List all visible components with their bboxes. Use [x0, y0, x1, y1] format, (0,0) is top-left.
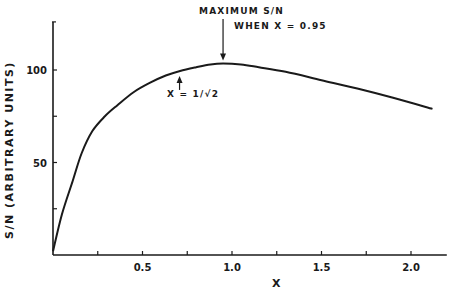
x-tick-label: 1.0: [223, 262, 241, 273]
x-tick-label: 2.0: [402, 262, 420, 273]
x-tick-label: 0.5: [134, 262, 152, 273]
arrow-up-icon: [177, 76, 183, 83]
y-tick-label: 100: [26, 65, 47, 76]
annotation-maximum: MAXIMUM S/N WHEN X = 0.95: [199, 6, 327, 61]
annotation-maximum-line1: MAXIMUM S/N: [199, 6, 284, 16]
annotation-inv-sqrt2-label: X = 1/√2: [167, 89, 219, 99]
arrow-down-icon: [220, 54, 226, 61]
x-axis-title: X: [272, 277, 282, 290]
axes: [52, 22, 447, 255]
annotation-inv-sqrt2: X = 1/√2: [167, 76, 219, 99]
annotation-maximum-line2: WHEN X = 0.95: [234, 21, 327, 31]
y-axis-title: S/N (ARBITRARY UNITS): [3, 61, 16, 239]
chart: 0.51.01.52.0 50100 X S/N (ARBITRARY UNIT…: [0, 0, 456, 297]
x-tick-label: 1.5: [313, 262, 331, 273]
y-tick-label: 50: [33, 158, 47, 169]
series-line-sn: [53, 64, 432, 252]
